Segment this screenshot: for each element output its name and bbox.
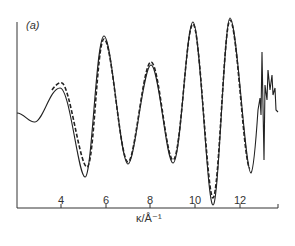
x-tick-label: 4 [58, 194, 64, 206]
x-tick-label: 12 [234, 194, 246, 206]
chart-plot [0, 0, 295, 246]
x-tick-label: 8 [147, 194, 153, 206]
x-axis-label: κ/Å⁻¹ [136, 212, 162, 225]
x-tick-label: 10 [189, 194, 201, 206]
x-tick-label: 6 [103, 194, 109, 206]
solid-curve [17, 18, 278, 205]
panel-label: (a) [26, 19, 39, 31]
